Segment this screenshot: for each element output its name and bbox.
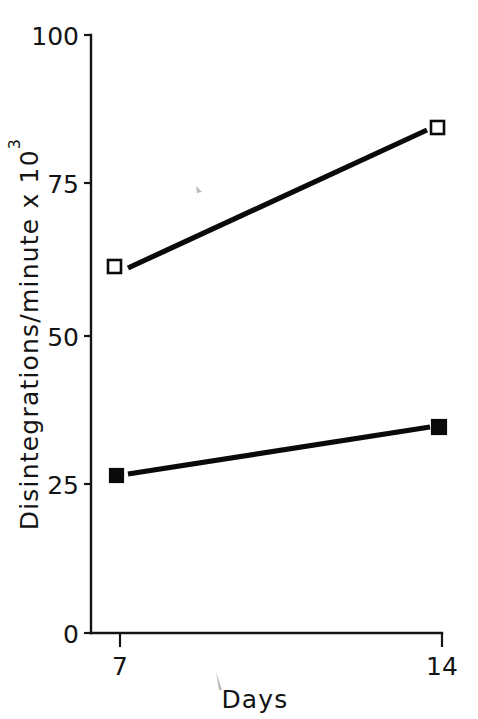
series-filled-square [110,420,446,482]
series-open-square [108,121,444,273]
y-tick-label-0: 0 [63,620,79,649]
x-tick-label-7: 7 [112,652,128,681]
y-tick-label-75: 75 [47,170,79,199]
data-point-open-square-day7 [108,260,121,273]
data-point-filled-square-day7 [110,469,123,482]
x-axis-title: Days [221,685,288,714]
x-axis-ticks [120,633,442,647]
data-point-filled-square-day14 [432,420,446,434]
x-tick-label-14: 14 [426,652,458,681]
y-tick-label-50: 50 [47,323,79,352]
axes-group [91,35,442,633]
y-axis-title-text: Disintegrations/minute x 10 [15,149,44,530]
stray-ink-mark-upper [196,186,202,193]
x-axis-title-group: Days [221,685,288,714]
series-filled-square-segment [128,427,430,474]
x-axis-tick-labels: 7 14 [112,652,458,681]
y-axis-title: Disintegrations/minute x 103 [5,138,45,530]
data-point-open-square-day14 [431,121,444,134]
series-open-square-segment [128,130,427,268]
y-tick-label-100: 100 [31,22,79,51]
chart-figure: 100 75 50 25 0 7 14 Disintegrations/minu… [0,0,478,719]
y-axis-title-group: Disintegrations/minute x 103 [5,138,45,530]
y-axis-title-exponent: 3 [5,138,24,149]
scan-artifacts [196,186,222,690]
line-chart-plot: 100 75 50 25 0 7 14 Disintegrations/minu… [0,0,478,719]
y-tick-label-25: 25 [47,471,79,500]
